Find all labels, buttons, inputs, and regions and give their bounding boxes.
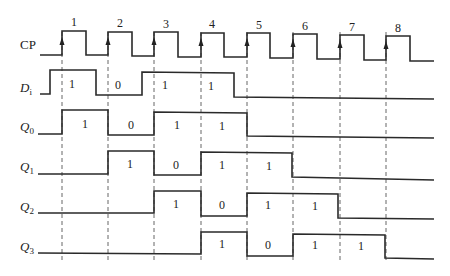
q0-label: Q0 bbox=[20, 119, 34, 136]
arrow-up-icon bbox=[245, 38, 250, 46]
bit-value: 1 bbox=[312, 238, 318, 252]
pulse-number: 7 bbox=[349, 20, 355, 34]
q0-waveform bbox=[38, 110, 434, 138]
signal-q2: Q2 1 0 1 1 bbox=[20, 191, 434, 219]
di-waveform bbox=[40, 70, 434, 99]
arrow-up-icon bbox=[338, 40, 343, 48]
bit-value: 1 bbox=[265, 198, 271, 212]
bit-value: 1 bbox=[173, 197, 179, 211]
arrow-up-icon bbox=[384, 41, 389, 49]
bit-value: 1 bbox=[208, 79, 214, 93]
clock-signal: CP 1 2 3 4 5 6 7 8 bbox=[20, 15, 434, 61]
edge-guide-lines bbox=[62, 32, 386, 262]
pulse-number: 5 bbox=[256, 18, 262, 32]
pulse-number: 8 bbox=[395, 21, 401, 35]
bit-value: 0 bbox=[219, 198, 225, 212]
arrow-up-icon bbox=[291, 39, 296, 47]
bit-value: 1 bbox=[69, 77, 75, 91]
arrow-up-icon bbox=[199, 38, 204, 46]
signal-di: Di 1 0 1 1 bbox=[19, 70, 434, 99]
q2-label: Q2 bbox=[20, 199, 34, 216]
q2-waveform bbox=[38, 191, 434, 219]
bit-value: 0 bbox=[115, 78, 121, 92]
pulse-number: 6 bbox=[302, 19, 308, 33]
bit-value: 1 bbox=[174, 118, 180, 132]
bit-value: 1 bbox=[82, 117, 88, 131]
bit-value: 1 bbox=[127, 157, 133, 171]
bit-value: 1 bbox=[358, 239, 364, 253]
pulse-number: 1 bbox=[71, 15, 77, 29]
arrow-up-icon bbox=[106, 37, 111, 45]
bit-value: 1 bbox=[219, 158, 225, 172]
pulse-number: 2 bbox=[117, 16, 123, 30]
q3-waveform bbox=[38, 232, 434, 259]
cp-label: CP bbox=[20, 37, 36, 52]
q1-label: Q1 bbox=[20, 159, 34, 176]
clock-waveform bbox=[40, 31, 434, 61]
bit-value: 1 bbox=[312, 199, 318, 213]
arrow-up-icon bbox=[60, 37, 65, 45]
q3-label: Q3 bbox=[20, 239, 34, 256]
timing-diagram: CP 1 2 3 4 5 6 7 8 Di 1 0 1 bbox=[0, 0, 450, 276]
signal-q0: Q0 1 0 1 1 bbox=[20, 110, 434, 138]
bit-value: 1 bbox=[219, 119, 225, 133]
bit-value: 0 bbox=[265, 238, 271, 252]
pulse-number: 3 bbox=[163, 17, 169, 31]
bit-value: 1 bbox=[219, 237, 225, 251]
bit-value: 1 bbox=[162, 78, 168, 92]
di-label: Di bbox=[19, 80, 32, 97]
bit-value: 0 bbox=[128, 118, 134, 132]
pulse-number: 4 bbox=[209, 17, 215, 31]
q1-waveform bbox=[38, 151, 434, 180]
signal-q3: Q3 1 0 1 1 bbox=[20, 232, 434, 259]
bit-value: 1 bbox=[266, 159, 272, 173]
bit-value: 0 bbox=[173, 158, 179, 172]
arrow-up-icon bbox=[152, 37, 157, 45]
signal-q1: Q1 1 0 1 1 bbox=[20, 151, 434, 180]
